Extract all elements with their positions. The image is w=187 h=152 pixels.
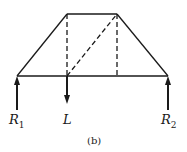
figure-caption: (b) — [87, 135, 101, 146]
r2-arrowhead-icon — [165, 76, 171, 85]
left-inclined-member — [17, 14, 67, 76]
l-arrowhead-icon — [64, 95, 70, 104]
load-label: L — [63, 112, 72, 127]
r1-label: R1 — [9, 112, 25, 130]
diagonal-dashed — [67, 14, 117, 76]
right-inclined-member — [117, 14, 168, 76]
truss-diagram — [0, 0, 187, 152]
r1-arrowhead-icon — [14, 76, 20, 85]
r2-label: R2 — [161, 112, 177, 130]
